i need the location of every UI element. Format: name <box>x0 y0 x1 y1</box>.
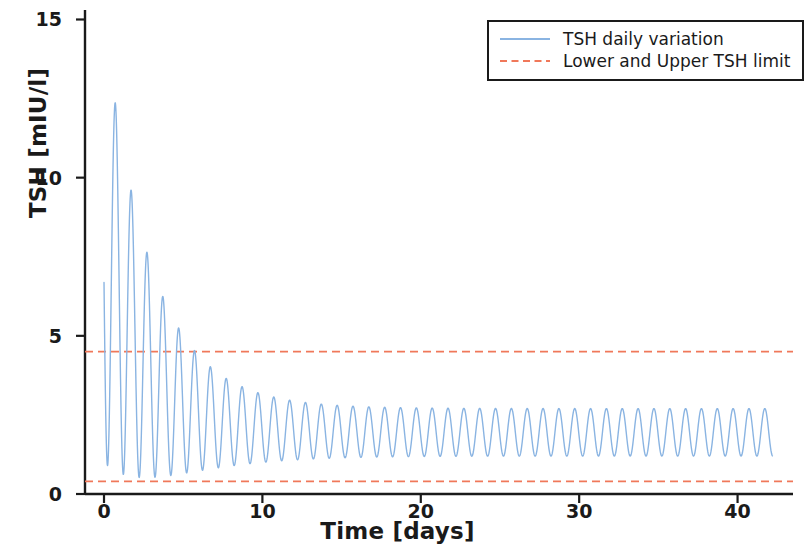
data-series-layer <box>85 103 793 482</box>
legend-line-solid-icon <box>499 32 551 46</box>
legend-item-tsh-limits: Lower and Upper TSH limit <box>499 50 790 72</box>
legend-label-tsh-daily-variation: TSH daily variation <box>563 29 724 49</box>
legend-label-tsh-limits: Lower and Upper TSH limit <box>563 51 790 71</box>
chart-legend: TSH daily variation Lower and Upper TSH … <box>487 20 804 81</box>
y-tick-label: 5 <box>16 325 62 347</box>
tsh-daily-variation-curve <box>104 103 772 478</box>
tsh-limit-lines <box>85 352 793 482</box>
legend-item-tsh-daily-variation: TSH daily variation <box>499 28 790 50</box>
legend-line-dashed-icon <box>499 54 551 68</box>
x-axis-label: Time [days] <box>0 518 795 544</box>
y-axis-label: TSH [mIU/l] <box>25 23 51 263</box>
y-axis-ticks <box>76 19 85 494</box>
